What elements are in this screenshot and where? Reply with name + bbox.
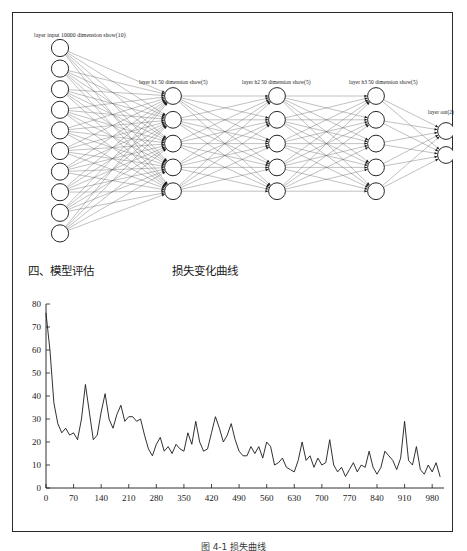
network-edge bbox=[69, 97, 163, 108]
network-edge bbox=[181, 98, 266, 117]
network-edge bbox=[285, 98, 365, 117]
x-tick-label: 280 bbox=[150, 493, 164, 503]
network-edge bbox=[181, 122, 266, 141]
network-edge bbox=[285, 101, 367, 140]
network-edge bbox=[68, 172, 163, 210]
network-edge bbox=[68, 173, 162, 189]
network-edge bbox=[69, 191, 162, 192]
x-tick-label: 910 bbox=[398, 493, 412, 503]
x-tick-label: 560 bbox=[260, 493, 274, 503]
network-edge bbox=[285, 148, 367, 187]
y-tick-label: 30 bbox=[32, 414, 42, 424]
network-edge bbox=[283, 102, 368, 184]
network-edge-arrow bbox=[364, 95, 367, 98]
network-edge bbox=[284, 125, 367, 185]
network-node-h3-4 bbox=[368, 159, 385, 176]
network-edge-arrow bbox=[436, 147, 439, 150]
network-node-input-4 bbox=[51, 101, 68, 118]
network-svg bbox=[12, 13, 453, 245]
network-edge-arrow bbox=[266, 147, 269, 149]
network-edge-arrow bbox=[265, 142, 268, 145]
network-edge bbox=[285, 125, 367, 164]
network-edge-arrow bbox=[265, 164, 268, 166]
network-node-h1-5 bbox=[165, 183, 182, 200]
network-edge bbox=[383, 136, 436, 163]
network-edge bbox=[283, 104, 368, 186]
network-node-h2-4 bbox=[269, 159, 286, 176]
network-node-h1-2 bbox=[165, 111, 182, 128]
network-node-h3-1 bbox=[368, 88, 385, 105]
network-edge bbox=[68, 99, 162, 128]
network-edge-arrow bbox=[265, 145, 268, 147]
network-edge-arrow bbox=[435, 159, 438, 162]
network-edge bbox=[181, 145, 266, 164]
network-edge-arrow bbox=[364, 187, 367, 189]
y-tick-label: 50 bbox=[32, 368, 42, 378]
x-tick-label: 70 bbox=[69, 493, 79, 503]
network-edge-arrow bbox=[162, 194, 165, 196]
layer-label-h3: layer h3 50 dimension show(5) bbox=[349, 79, 418, 85]
network-edge-arrow bbox=[364, 163, 367, 165]
x-tick-label: 700 bbox=[315, 493, 329, 503]
figure-caption: 图 4-1 损失曲线 bbox=[0, 540, 467, 551]
section-heading: 四、模型评估 bbox=[28, 262, 94, 278]
network-node-input-1 bbox=[51, 39, 68, 56]
network-node-h3-3 bbox=[368, 135, 385, 152]
network-node-h1-3 bbox=[165, 135, 182, 152]
network-edge bbox=[285, 123, 367, 162]
x-tick-label: 0 bbox=[44, 493, 49, 503]
network-edge bbox=[181, 122, 266, 141]
network-edge bbox=[181, 101, 267, 141]
network-edge-arrow bbox=[364, 169, 367, 171]
y-tick-label: 60 bbox=[32, 345, 42, 355]
network-edge bbox=[285, 146, 365, 165]
network-edge-arrow bbox=[265, 187, 268, 189]
network-edge-arrow bbox=[364, 116, 367, 118]
network-edge-arrow bbox=[265, 116, 268, 118]
loss-curve-chart: 01020304050607080 0701402102803504204905… bbox=[12, 290, 453, 522]
network-edge bbox=[68, 101, 163, 147]
network-edge bbox=[66, 95, 164, 184]
layer-label-h2: layer h2 50 dimension show(5) bbox=[242, 79, 311, 85]
y-tick-label: 40 bbox=[32, 391, 42, 401]
network-edge bbox=[181, 146, 266, 165]
network-edge-arrow bbox=[266, 138, 269, 140]
loss-curve-line bbox=[46, 313, 440, 476]
network-edge bbox=[181, 100, 267, 140]
network-edge bbox=[68, 133, 162, 164]
network-edge-arrow bbox=[434, 132, 437, 134]
network-edge-arrow bbox=[265, 190, 268, 193]
network-edge bbox=[285, 99, 365, 118]
network-edge-arrow bbox=[434, 128, 437, 130]
network-node-input-2 bbox=[51, 60, 68, 77]
network-node-h3-5 bbox=[368, 183, 385, 200]
network-edge-arrow bbox=[364, 98, 367, 100]
y-tick-label: 0 bbox=[37, 483, 42, 493]
network-edge bbox=[67, 149, 163, 208]
network-node-input-8 bbox=[51, 184, 68, 201]
y-tick-labels: 01020304050607080 bbox=[32, 299, 42, 493]
x-tick-label: 980 bbox=[425, 493, 439, 503]
y-tick-label: 80 bbox=[32, 299, 42, 309]
chart-svg: 01020304050607080 0701402102803504204905… bbox=[12, 290, 453, 522]
x-tick-label: 350 bbox=[177, 493, 191, 503]
network-edge-arrow bbox=[265, 95, 268, 98]
network-node-h1-1 bbox=[165, 88, 182, 105]
network-edge bbox=[284, 126, 367, 186]
network-edge bbox=[179, 102, 269, 184]
chart-title: 损失变化曲线 bbox=[172, 262, 238, 278]
network-edge-arrow bbox=[265, 140, 268, 142]
document-page: layer input 10000 dimension show(10) lay… bbox=[0, 0, 467, 551]
network-node-out-1 bbox=[438, 123, 453, 140]
network-edge-arrow bbox=[265, 169, 268, 171]
layer-label-h1: layer h1 50 dimension show(5) bbox=[139, 79, 208, 85]
network-edge bbox=[181, 148, 267, 188]
network-edge-arrow bbox=[435, 125, 438, 128]
network-edge-arrow bbox=[365, 147, 368, 150]
y-tick-label: 70 bbox=[32, 322, 42, 332]
network-node-h2-2 bbox=[269, 111, 286, 128]
network-node-out-2 bbox=[438, 147, 453, 164]
network-edge bbox=[68, 112, 162, 140]
network-edge bbox=[285, 170, 365, 189]
network-edge-arrow bbox=[161, 190, 164, 193]
